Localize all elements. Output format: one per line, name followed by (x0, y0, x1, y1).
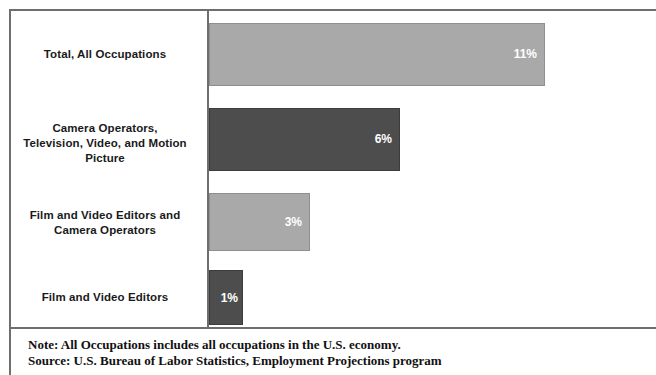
chart-row: Film and Video Editors and Camera Operat… (11, 193, 656, 251)
bar-film-and-video-editors[interactable]: 1% (209, 270, 243, 325)
category-label-line: Camera Operators, (52, 122, 157, 134)
category-label: Film and Video Editors and Camera Operat… (11, 208, 199, 238)
category-label-line: Camera Operators (54, 224, 156, 236)
chart-figure: Total, All Occupations 11% Camera Operat… (0, 0, 656, 375)
footnote-separator (11, 327, 656, 329)
category-label: Total, All Occupations (11, 47, 199, 62)
category-label: Film and Video Editors (11, 290, 199, 305)
chart-row: Film and Video Editors 1% (11, 270, 656, 325)
category-label: Camera Operators, Television, Video, and… (11, 121, 199, 166)
bar-value-label: 6% (375, 133, 392, 145)
chart-row: Camera Operators, Television, Video, and… (11, 108, 656, 171)
category-label-line: Film and Video Editors (42, 291, 169, 303)
plot-area: Total, All Occupations 11% Camera Operat… (11, 11, 656, 327)
category-label-line: Television, Video, and Motion (23, 137, 187, 149)
category-label-line: Picture (85, 152, 125, 164)
bar-value-label: 11% (514, 48, 537, 60)
footnote-source: Source: U.S. Bureau of Labor Statistics,… (28, 353, 648, 369)
footnotes: Note: All Occupations includes all occup… (28, 337, 648, 369)
footnote-note: Note: All Occupations includes all occup… (28, 337, 648, 353)
bar-value-label: 3% (285, 216, 302, 228)
chart-row: Total, All Occupations 11% (11, 23, 656, 86)
bar-camera-operators-tv-video-motion-picture[interactable]: 6% (209, 108, 400, 171)
category-label-line: Film and Video Editors and (30, 209, 181, 221)
bar-film-video-editors-and-camera-operators[interactable]: 3% (209, 193, 310, 251)
bar-value-label: 1% (221, 292, 238, 304)
category-label-line: Total, All Occupations (44, 48, 166, 60)
bar-total-all-occupations[interactable]: 11% (209, 23, 545, 86)
